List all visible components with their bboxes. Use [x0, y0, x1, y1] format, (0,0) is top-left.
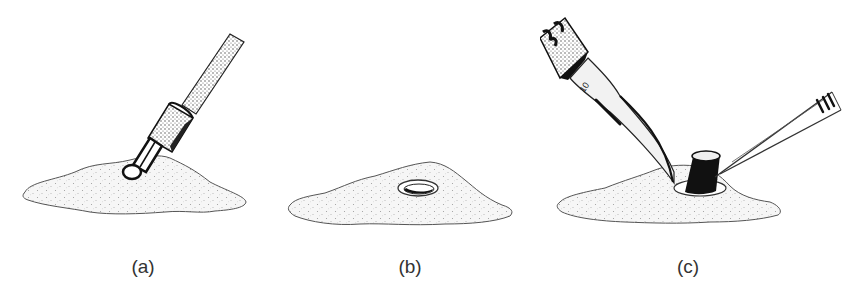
punch-tool-icon [123, 34, 244, 179]
skin-surface-b [288, 162, 512, 225]
panel-c-label: (c) [658, 256, 718, 278]
panel-a-label: (a) [113, 256, 173, 278]
panel-a: (a) [0, 0, 280, 304]
panel-c: 10 (c) [540, 0, 855, 304]
panel-b-label: (b) [380, 256, 440, 278]
tissue-core-icon [685, 151, 720, 194]
scalpel-icon: 10 [540, 18, 674, 183]
panel-b: (b) [280, 0, 540, 304]
forceps-icon [715, 92, 841, 177]
incision-hole-icon [398, 180, 438, 196]
